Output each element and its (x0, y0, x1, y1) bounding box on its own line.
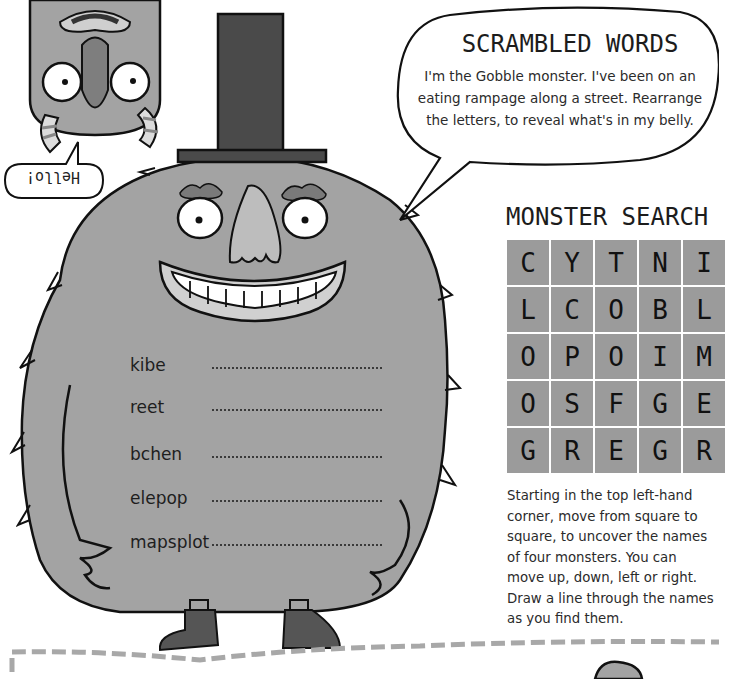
grid-cell[interactable]: P (551, 334, 593, 379)
grid-cell[interactable]: S (551, 381, 593, 426)
word-row: kibe (130, 345, 390, 375)
answer-line[interactable] (212, 367, 382, 369)
answer-line[interactable] (212, 500, 382, 502)
word-row: bchen (130, 434, 390, 464)
grid-cell[interactable]: E (683, 381, 725, 426)
scrambled-words-intro: I'm the Gobble monster. I've been on an … (410, 65, 710, 131)
grid-cell[interactable]: O (507, 334, 549, 379)
scrambled-word: elepop (130, 488, 210, 508)
scrambled-word: kibe (130, 355, 210, 375)
grid-cell[interactable]: N (639, 240, 681, 285)
grid-cell[interactable]: C (551, 287, 593, 332)
grid-cell[interactable]: G (639, 381, 681, 426)
grid-cell[interactable]: F (595, 381, 637, 426)
hello-text: Hello! (10, 168, 96, 186)
scrambled-word: reet (130, 397, 210, 417)
grid-cell[interactable]: L (683, 287, 725, 332)
partial-monster-illustration (595, 662, 642, 679)
grid-cell[interactable]: R (551, 428, 593, 473)
grid-cell[interactable]: O (595, 334, 637, 379)
grid-cell[interactable]: I (639, 334, 681, 379)
upside-down-monster-illustration (30, 0, 160, 152)
grid-cell[interactable]: R (683, 428, 725, 473)
grid-cell[interactable]: G (507, 428, 549, 473)
monster-search-instructions: Starting in the top left-hand corner, mo… (507, 486, 717, 630)
monster-search-title: MONSTER SEARCH (506, 203, 729, 231)
answer-line[interactable] (212, 456, 382, 458)
grid-cell[interactable]: I (683, 240, 725, 285)
grid-cell[interactable]: O (595, 287, 637, 332)
grid-cell[interactable]: L (507, 287, 549, 332)
monster-search-grid: C Y T N I L C O B L O P O I M O S F G E … (507, 240, 725, 473)
grid-cell[interactable]: E (595, 428, 637, 473)
scrambled-word: bchen (130, 444, 210, 464)
grid-cell[interactable]: M (683, 334, 725, 379)
scrambled-words-title: SCRAMBLED WORDS (440, 30, 700, 58)
grid-cell[interactable]: T (595, 240, 637, 285)
grid-cell[interactable]: G (639, 428, 681, 473)
scrambled-word: mapsplot (130, 532, 210, 552)
grid-cell[interactable]: Y (551, 240, 593, 285)
grid-cell[interactable]: O (507, 381, 549, 426)
grid-cell[interactable]: C (507, 240, 549, 285)
word-row: elepop (130, 478, 390, 508)
grid-cell[interactable]: B (639, 287, 681, 332)
answer-line[interactable] (212, 409, 382, 411)
word-row: mapsplot (130, 522, 390, 552)
answer-line[interactable] (212, 544, 382, 546)
word-row: reet (130, 387, 390, 417)
